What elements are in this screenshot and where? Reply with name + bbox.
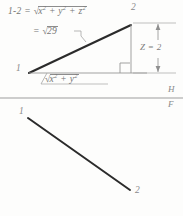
- equation-radicand: x2 + y2 + z2: [38, 6, 87, 17]
- dimension-arrow-up-icon: [156, 24, 161, 30]
- right-angle-marker-icon: [120, 63, 130, 73]
- front-view-point-2-label: 2: [135, 186, 140, 196]
- equation-lhs: 1-2 =: [8, 6, 31, 16]
- top-view-point-2-label: 2: [131, 3, 136, 13]
- top-view-point-1-label: 1: [16, 64, 21, 74]
- base-length-label: √x2 + y2: [45, 74, 79, 85]
- equation-radicand-2: 29: [47, 26, 58, 37]
- equation-equals-sign: =: [33, 26, 40, 36]
- drawing-sheet: 1-2 = √x2 + y2 + z2 = √29 1 2 √x2 + y2 Z…: [0, 0, 183, 216]
- equation-line-1: 1-2 = √x2 + y2 + z2: [8, 6, 87, 17]
- linework-layer: [0, 0, 183, 216]
- front-view-point-1-label: 1: [19, 107, 24, 117]
- reference-label-f: F: [168, 100, 174, 109]
- front-view-line-1-2: [28, 118, 130, 190]
- leader-line-sqrt29: [74, 31, 86, 42]
- z-dimension-label: Z = 2: [140, 43, 162, 52]
- dimension-arrow-down-icon: [156, 66, 161, 72]
- equation-line-2: = √29: [33, 26, 58, 37]
- base-radicand: x2 + y2: [50, 74, 79, 85]
- reference-label-h: H: [168, 85, 175, 94]
